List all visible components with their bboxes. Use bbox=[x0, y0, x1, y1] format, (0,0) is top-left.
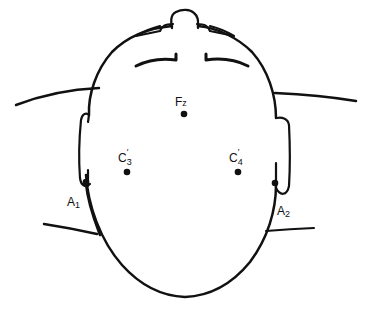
electrode-a1: A1 bbox=[67, 179, 89, 210]
electrode-label-a1: A1 bbox=[67, 195, 80, 210]
shoulder-left-upper bbox=[16, 88, 99, 105]
eeg-head-diagram: Fz C3′ C4′ A1 A2 bbox=[0, 0, 366, 311]
shoulder-left-lower bbox=[44, 224, 97, 234]
brow-right bbox=[206, 54, 248, 66]
electrode-label-fz: Fz bbox=[175, 95, 187, 109]
electrode-c4-prime: C4′ bbox=[229, 147, 243, 175]
brow-left bbox=[136, 54, 176, 66]
electrode-dot-a2 bbox=[272, 180, 279, 187]
electrode-fz: Fz bbox=[175, 95, 187, 117]
electrode-label-c4-prime: C4′ bbox=[229, 147, 243, 167]
head-drawing: Fz C3′ C4′ A1 A2 bbox=[0, 0, 366, 311]
electrode-dot-a1 bbox=[83, 179, 90, 186]
electrode-dot-c3-prime bbox=[124, 169, 131, 176]
electrode-dot-c4-prime bbox=[235, 169, 242, 176]
electrode-dot-fz bbox=[181, 111, 188, 118]
nose bbox=[171, 10, 198, 28]
shoulder-right-upper bbox=[275, 93, 356, 101]
shoulder-right-lower bbox=[266, 228, 314, 231]
ear-left-join bbox=[88, 115, 89, 122]
ear-left bbox=[79, 114, 90, 186]
electrode-label-c3-prime: C3′ bbox=[118, 147, 132, 167]
electrode-c3-prime: C3′ bbox=[118, 147, 132, 175]
electrode-label-a2: A2 bbox=[277, 204, 290, 219]
